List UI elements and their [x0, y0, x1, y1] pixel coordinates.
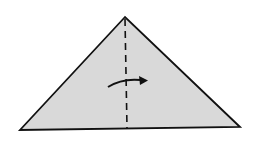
paper-triangle	[20, 17, 240, 130]
diagram-svg	[0, 0, 254, 151]
origami-diagram	[0, 0, 254, 151]
